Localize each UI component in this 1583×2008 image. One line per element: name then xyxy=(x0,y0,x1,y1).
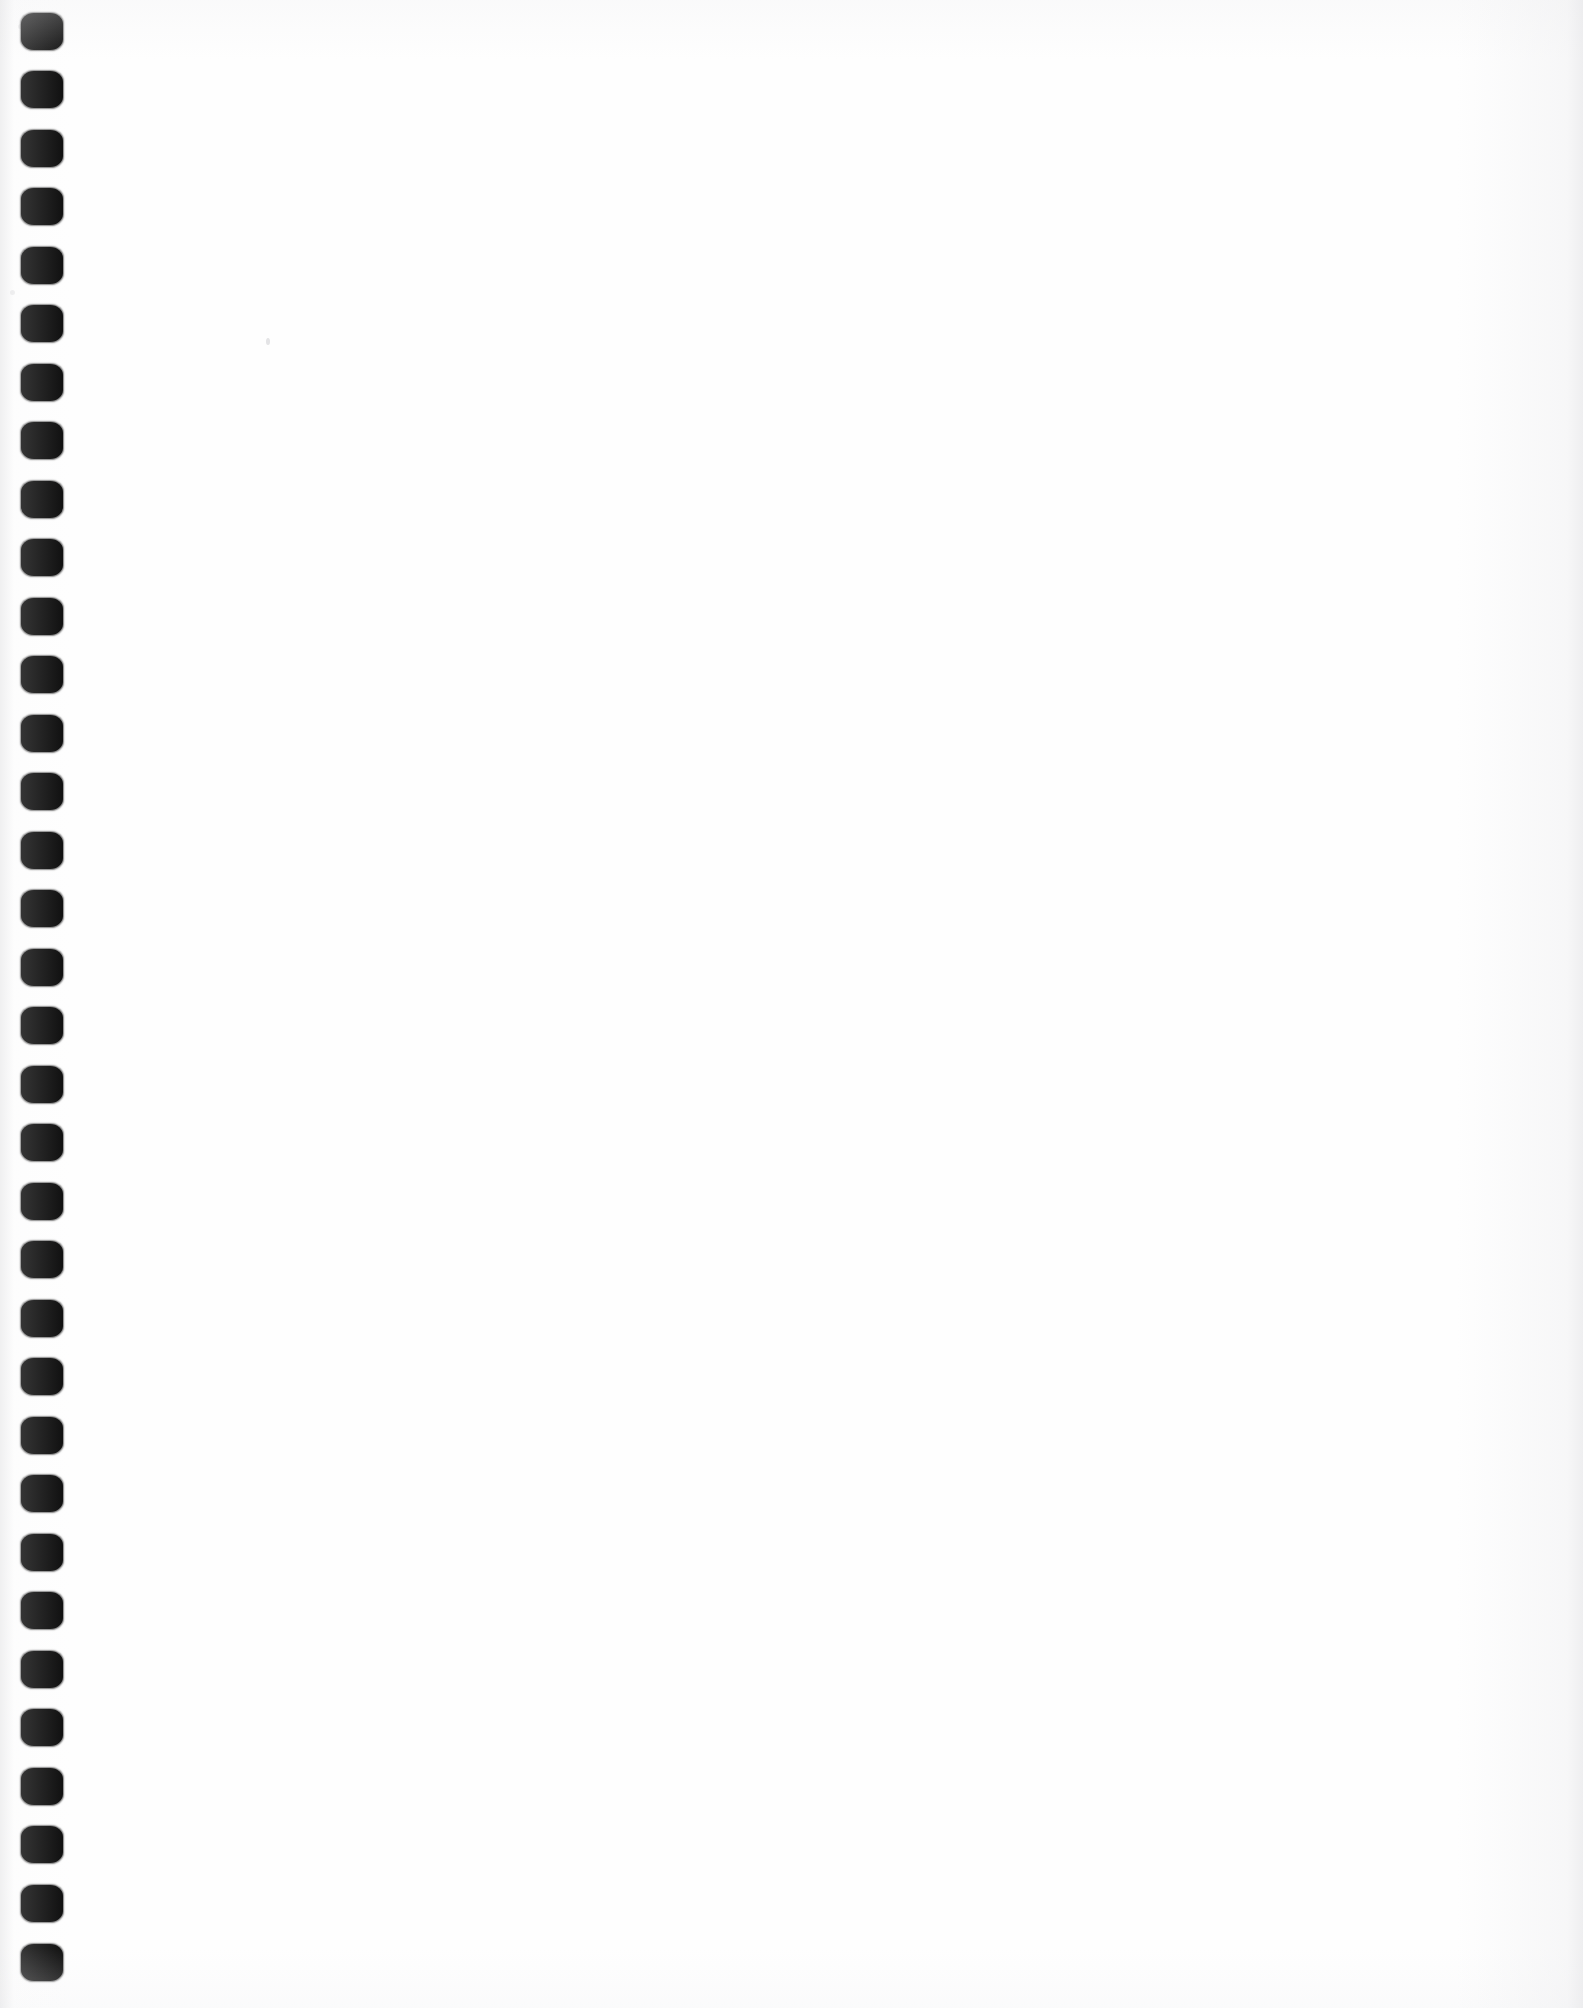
binding-hole xyxy=(21,890,63,927)
binding-hole xyxy=(21,539,63,576)
binding-hole xyxy=(21,188,63,225)
binding-hole xyxy=(21,598,63,635)
scanned-page xyxy=(0,0,1583,2008)
binding-hole xyxy=(21,364,63,401)
binding-hole xyxy=(21,305,63,342)
binding-hole xyxy=(21,1124,63,1161)
binding-hole xyxy=(21,656,63,693)
binding-hole xyxy=(21,715,63,752)
binding-hole xyxy=(21,949,63,986)
binding-hole xyxy=(21,247,63,284)
binding-hole xyxy=(21,1592,63,1629)
binding-hole xyxy=(21,13,63,50)
binding-hole xyxy=(21,773,63,810)
binding-hole xyxy=(21,1066,63,1103)
binding-hole xyxy=(21,1007,63,1044)
binding-hole xyxy=(21,1885,63,1922)
binding-hole xyxy=(21,1358,63,1395)
binding-hole xyxy=(21,71,63,108)
binding-hole xyxy=(21,1183,63,1220)
binding-hole xyxy=(21,832,63,869)
binding-hole xyxy=(21,481,63,518)
binding-hole xyxy=(21,130,63,167)
binding-hole xyxy=(21,1300,63,1337)
binding-hole xyxy=(21,1475,63,1512)
binding-margin xyxy=(0,0,110,2008)
binding-hole xyxy=(21,1241,63,1278)
binding-hole xyxy=(21,1768,63,1805)
paper-surface xyxy=(0,0,1583,2008)
scan-artifact-speck xyxy=(266,338,270,345)
binding-hole xyxy=(21,1651,63,1688)
binding-hole xyxy=(21,1826,63,1863)
binding-hole xyxy=(21,1417,63,1454)
binding-hole xyxy=(21,1944,63,1981)
binding-hole xyxy=(21,422,63,459)
binding-hole xyxy=(21,1534,63,1571)
binding-hole xyxy=(21,1709,63,1746)
